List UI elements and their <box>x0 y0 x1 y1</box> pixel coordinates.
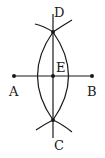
arc-bottom-right <box>53 120 72 132</box>
label-d: D <box>54 5 64 20</box>
label-c: C <box>54 138 64 153</box>
label-a: A <box>8 84 19 99</box>
point-c <box>51 118 55 122</box>
arc-top-left <box>35 24 53 32</box>
label-b: B <box>87 84 97 99</box>
arc-bottom-left <box>36 120 53 130</box>
point-b <box>90 74 94 78</box>
perpendicular-bisector-diagram: D E A B C <box>0 0 105 158</box>
point-d <box>51 30 55 34</box>
arc-top-right <box>53 20 72 32</box>
point-e <box>51 74 55 78</box>
label-e: E <box>56 60 66 75</box>
point-a <box>12 74 16 78</box>
